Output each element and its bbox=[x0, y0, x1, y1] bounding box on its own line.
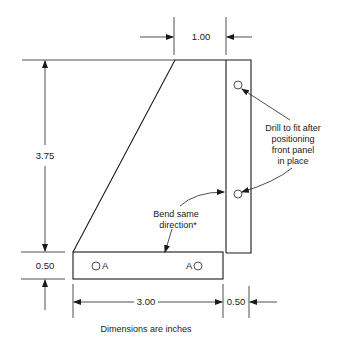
label-flange-width: 0.50 bbox=[227, 296, 246, 307]
bracket-drawing: 1.00 3.75 0.50 3.00 0.50 A A Drill to fi… bbox=[0, 0, 342, 348]
hole-a-left bbox=[92, 262, 100, 270]
drill-hole-top bbox=[234, 81, 242, 89]
hole-a-right bbox=[194, 262, 202, 270]
label-height: 3.75 bbox=[36, 150, 55, 161]
label-strip-height: 0.50 bbox=[36, 260, 55, 271]
drill-note-line4: in place bbox=[277, 156, 308, 166]
hole-a-right-label: A bbox=[186, 260, 193, 271]
bend-note-line2: direction* bbox=[159, 220, 197, 230]
label-strip-length: 3.00 bbox=[137, 296, 156, 307]
drill-hole-bottom bbox=[234, 190, 242, 198]
hole-a-left-label: A bbox=[102, 260, 109, 271]
caption: Dimensions are inches bbox=[100, 324, 192, 334]
label-top-width: 1.00 bbox=[192, 31, 211, 42]
part-outline bbox=[73, 60, 251, 279]
drill-note-line2: positioning bbox=[271, 134, 314, 144]
dimension-flange-width bbox=[249, 286, 277, 318]
drill-note-line3: front panel bbox=[272, 145, 315, 155]
drill-note-line1: Drill to fit after bbox=[265, 123, 321, 133]
bend-note-line1: Bend same bbox=[153, 209, 199, 219]
